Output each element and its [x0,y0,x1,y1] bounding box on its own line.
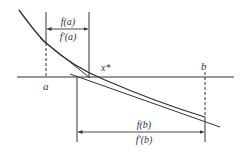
fraction-a-numerator: f(a) [61,17,75,29]
label-b: b [201,61,207,72]
diagram-graphics [0,0,248,156]
fraction-b-numerator: f(b) [137,120,151,132]
fraction-b: f(b) f′(b) [129,120,159,145]
function-curve [19,10,205,117]
fraction-b-denominator: f′(b) [136,133,153,145]
fraction-a: f(a) f′(a) [54,17,82,42]
label-a: a [43,81,49,92]
newton-method-diagram: a b x* f(a) f′(a) f(b) f′(b) [0,0,248,156]
tangent-at-a [40,38,90,78]
fraction-a-denominator: f′(a) [60,30,77,42]
label-root: x* [101,63,110,73]
